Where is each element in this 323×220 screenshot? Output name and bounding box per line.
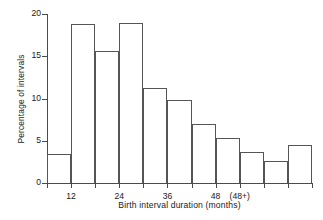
bar [119,23,143,183]
histogram-chart: Percentage of intervals 05101520 1224364… [0,0,323,220]
x-tick-mark [143,183,144,188]
x-tick-mark [264,183,265,188]
bar [71,24,95,183]
bar [95,51,119,183]
bar [167,100,191,183]
y-tick-label: 5 [36,135,41,146]
bar [288,145,312,183]
x-tick-mark [167,183,168,188]
x-tick-mark [288,183,289,188]
bar [216,138,240,183]
x-tick-mark [95,183,96,188]
x-axis-title: Birth interval duration (months) [47,199,312,211]
y-tick-label: 15 [31,50,41,61]
bar [143,88,167,183]
x-tick-mark [216,183,217,188]
y-tick-mark [42,14,47,15]
bar [47,154,71,183]
x-tick-mark [312,183,313,188]
plot-area: 05101520 12243648(48+) [47,14,312,184]
y-tick-label: 20 [31,8,41,19]
x-tick-mark [71,183,72,188]
y-axis-title: Percentage of intervals [14,4,28,194]
y-tick-label: 0 [36,177,41,188]
x-axis-line [47,183,312,184]
bar [192,124,216,183]
y-tick-mark [42,141,47,142]
x-tick-mark [240,183,241,188]
y-tick-label: 10 [31,93,41,104]
y-tick-mark [42,56,47,57]
y-tick-5: 5 [47,141,48,142]
bar [264,161,288,183]
x-tick-mark [47,183,48,188]
y-tick-mark [42,99,47,100]
x-tick-mark [192,183,193,188]
y-tick-10: 10 [47,99,48,100]
x-tick-mark [119,183,120,188]
y-tick-15: 15 [47,56,48,57]
bar [240,152,264,183]
y-tick-20: 20 [47,14,48,15]
